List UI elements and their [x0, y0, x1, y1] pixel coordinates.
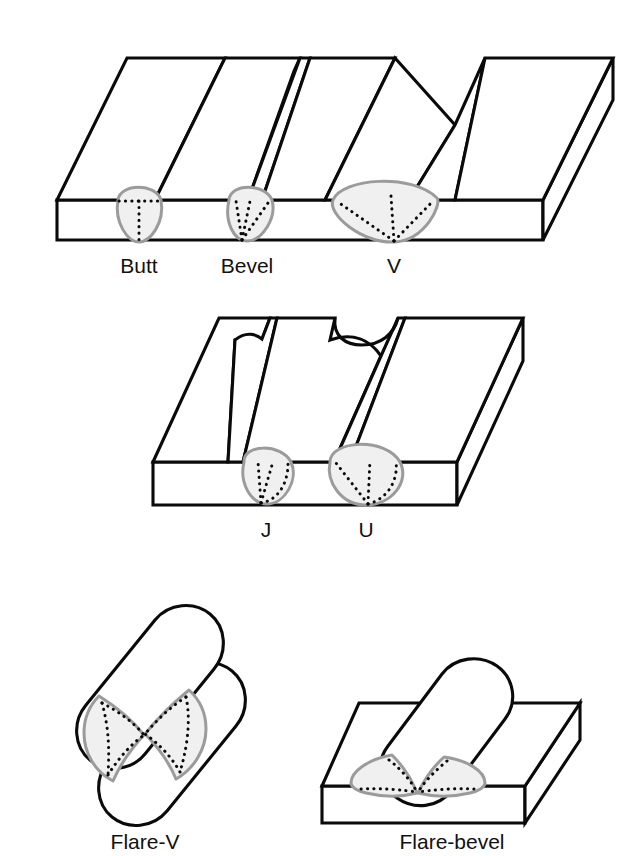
label-flare-v: Flare-V	[111, 830, 180, 853]
label-u: U	[358, 518, 373, 541]
row-3-flare-v-group: Flare-V	[77, 606, 246, 853]
label-bevel: Bevel	[221, 254, 274, 277]
row2-front-face	[153, 462, 457, 505]
weld-joint-diagram: Butt Bevel V	[0, 0, 634, 856]
weld-joint-figure: Butt Bevel V	[0, 0, 634, 856]
label-v: V	[387, 254, 401, 277]
label-flare-bevel: Flare-bevel	[399, 830, 504, 853]
row-1-group: Butt Bevel V	[57, 58, 613, 277]
row-3-flare-bevel-group: Flare-bevel	[322, 659, 580, 853]
row-2-group: J U	[153, 318, 523, 541]
label-j: J	[261, 518, 272, 541]
label-butt: Butt	[120, 254, 158, 277]
u-weld-bead	[329, 444, 402, 505]
